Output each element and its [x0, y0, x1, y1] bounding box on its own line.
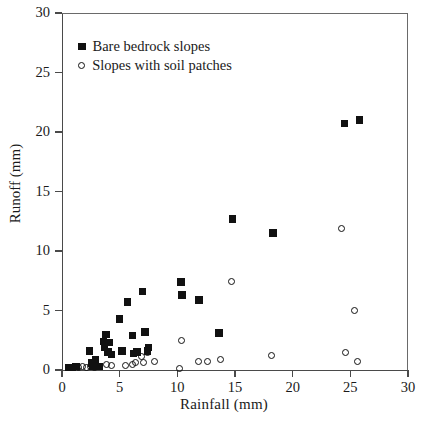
data-point-bare-bedrock	[102, 331, 110, 339]
data-point-soil-patches	[342, 349, 349, 356]
y-axis-tick-label: 15	[10, 184, 50, 199]
data-point-soil-patches	[140, 359, 147, 366]
data-point-soil-patches	[217, 356, 224, 363]
y-axis-tick-label: 20	[10, 124, 50, 139]
x-axis-title: Rainfall (mm)	[0, 396, 448, 413]
data-point-soil-patches	[338, 225, 345, 232]
y-axis-tick	[55, 310, 62, 311]
data-point-bare-bedrock	[269, 229, 277, 237]
data-point-soil-patches	[195, 358, 202, 365]
data-point-bare-bedrock	[124, 298, 132, 306]
y-axis-tick	[55, 72, 62, 73]
data-point-soil-patches	[228, 278, 235, 285]
y-axis-tick-label: 25	[10, 65, 50, 80]
x-axis-tick-label: 10	[157, 380, 197, 395]
data-point-soil-patches	[122, 362, 129, 369]
data-point-bare-bedrock	[177, 278, 185, 286]
x-axis-tick	[61, 370, 62, 377]
y-axis-tick-label: 10	[10, 243, 50, 258]
data-point-bare-bedrock	[141, 328, 149, 336]
chart-legend: Bare bedrock slopes Slopes with soil pat…	[78, 38, 232, 74]
data-point-soil-patches	[132, 359, 139, 366]
data-point-bare-bedrock	[356, 116, 364, 124]
data-point-soil-patches	[354, 358, 361, 365]
x-axis-tick	[407, 370, 408, 377]
data-point-bare-bedrock	[86, 347, 94, 355]
y-axis-tick	[55, 12, 62, 13]
y-axis-tick	[55, 250, 62, 251]
data-point-bare-bedrock	[139, 288, 147, 296]
filled-square-marker-icon	[78, 43, 86, 51]
data-point-soil-patches	[151, 358, 158, 365]
data-point-bare-bedrock	[341, 120, 349, 128]
data-point-soil-patches	[108, 362, 115, 369]
x-axis-tick	[292, 370, 293, 377]
y-axis-tick	[55, 131, 62, 132]
legend-label: Bare bedrock slopes	[93, 39, 211, 54]
data-point-bare-bedrock	[215, 329, 223, 337]
legend-label: Slopes with soil patches	[92, 58, 232, 73]
x-axis-tick-label: 15	[215, 380, 255, 395]
x-axis-tick-label: 20	[273, 380, 313, 395]
y-axis-tick	[55, 191, 62, 192]
x-axis-tick	[234, 370, 235, 377]
x-axis-tick-label: 0	[42, 380, 82, 395]
data-point-soil-patches	[268, 352, 275, 359]
y-axis-tick-label: 30	[10, 5, 50, 20]
y-axis-tick-label: 5	[10, 303, 50, 318]
data-point-bare-bedrock	[129, 332, 137, 340]
data-point-bare-bedrock	[106, 339, 114, 347]
data-point-bare-bedrock	[178, 291, 186, 299]
x-axis-tick-label: 30	[388, 380, 428, 395]
x-axis-tick	[350, 370, 351, 377]
data-point-bare-bedrock	[195, 296, 203, 304]
data-point-bare-bedrock	[108, 351, 116, 359]
legend-entry-bare-bedrock-slopes: Bare bedrock slopes	[78, 38, 232, 55]
data-point-soil-patches	[351, 307, 358, 314]
data-point-bare-bedrock	[116, 315, 124, 323]
data-point-soil-patches	[176, 365, 183, 372]
data-point-bare-bedrock	[229, 215, 237, 223]
x-axis-tick	[119, 370, 120, 377]
data-point-bare-bedrock	[118, 347, 126, 355]
legend-entry-slopes-with-soil-patches: Slopes with soil patches	[78, 57, 232, 74]
scatter-chart-figure: Rainfall (mm) Runoff (mm) 051015202530 0…	[0, 0, 448, 425]
x-axis-tick-label: 5	[100, 380, 140, 395]
data-point-soil-patches	[178, 337, 185, 344]
x-axis-tick-label: 25	[330, 380, 370, 395]
y-axis-tick-label: 0	[10, 362, 50, 377]
data-point-soil-patches	[204, 358, 211, 365]
open-circle-marker-icon	[78, 62, 85, 69]
